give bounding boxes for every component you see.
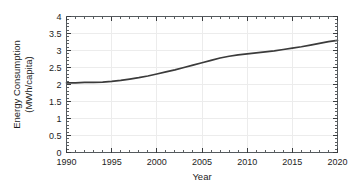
y-axis-tick-label: 3 <box>56 46 61 56</box>
y-axis-tick-label: 2 <box>56 80 61 90</box>
x-axis-title: Year <box>192 171 211 182</box>
y-axis-tick-label: 3.5 <box>49 29 62 39</box>
y-axis-title-line2: (MWh/capita) <box>23 56 34 112</box>
x-axis-tick-label: 1995 <box>102 157 122 167</box>
x-axis-tick-label: 2000 <box>147 157 167 167</box>
energy-consumption-line-chart: 00.511.522.533.5419901995200020052010201… <box>0 0 353 193</box>
y-axis-tick-label: 2.5 <box>49 63 62 73</box>
y-axis-tick-label: 1 <box>56 114 61 124</box>
x-axis-tick-label: 2015 <box>282 157 302 167</box>
x-axis-tick-label: 1990 <box>56 157 76 167</box>
chart-canvas: 00.511.522.533.5419901995200020052010201… <box>0 0 353 193</box>
x-axis-tick-label: 2010 <box>237 157 257 167</box>
y-axis-title-line1: Energy Consumption <box>11 40 22 129</box>
y-axis-tick-label: 0.5 <box>49 131 62 141</box>
x-axis-tick-label: 2005 <box>192 157 212 167</box>
y-axis-tick-label: 1.5 <box>49 97 62 107</box>
x-axis-tick-label: 2020 <box>327 157 347 167</box>
y-axis-tick-label: 4 <box>56 12 61 22</box>
